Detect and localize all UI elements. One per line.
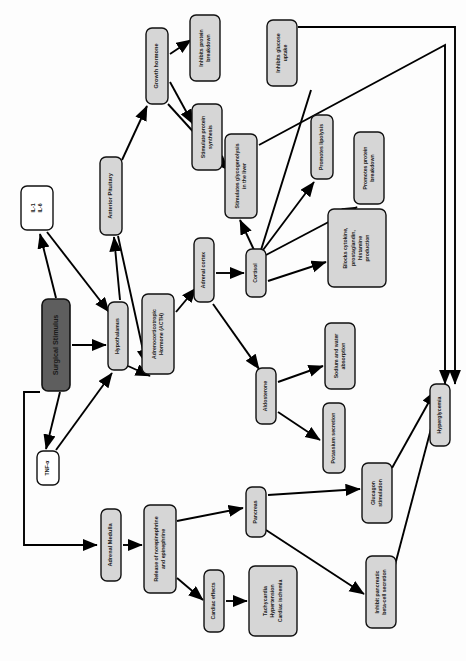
node-label-stimulates_glycogenolysis: Stimulates glycogenolysis	[234, 143, 240, 208]
node-label-glucagon_stimulation: Glucagon	[370, 481, 376, 505]
node-pancreas[interactable]: Pancreas	[246, 487, 266, 537]
node-label-inhibits_protein_breakdown: breakdown	[205, 34, 211, 61]
node-tnf_alpha[interactable]: TNF-α	[37, 451, 59, 485]
node-inhibits_glucose_uptake[interactable]: Inhibits glucoseuptake	[267, 20, 297, 86]
node-label-cardiac_outcomes: Tachycardia	[262, 586, 268, 616]
node-label-blocks_cytokine: Blocks cytokine,	[342, 227, 348, 268]
edge-cortisol-to-blocks_cytokine	[268, 262, 326, 281]
node-label-acth: Adrenocorticotropic	[151, 309, 157, 359]
node-aldosterone[interactable]: Aldosterone	[256, 368, 276, 424]
edge-release_ne_epi-to-pancreas	[177, 508, 243, 521]
edge-surgical_stimulus-to-interleukins	[40, 234, 56, 298]
node-label-anterior_pituitary: Anterior Pituitary	[107, 172, 113, 219]
node-label-sodium_water: Sodium and water	[333, 334, 339, 379]
node-growth_hormone[interactable]: Growth hormone	[146, 28, 168, 104]
node-label-potassium_secretion: Potassium secretion	[330, 413, 336, 464]
node-label-surgical_stimulus: Surgical Stimulus	[51, 315, 60, 376]
node-cortisol[interactable]: Cortisol	[246, 249, 266, 297]
node-acth[interactable]: AdrenocorticotropicHormone (ACTH)	[142, 294, 174, 374]
edge-surgical_stimulus-to-adrenal_medulla	[24, 392, 97, 545]
node-label-cardiac_outcomes: Hypertension	[269, 584, 275, 617]
node-cardiac_outcomes[interactable]: TachycardiaHypertensionCardiac ischemia	[249, 566, 297, 636]
edge-anterior_pituitary-to-growth_hormone	[122, 106, 147, 160]
node-label-release_ne_epi: and epinephrine	[160, 529, 166, 569]
node-surgical_stimulus[interactable]: Surgical Stimulus	[42, 299, 70, 391]
node-label-hypothalamus: Hypothalamus	[114, 318, 120, 354]
node-label-glucagon_stimulation: stimulation	[377, 479, 383, 507]
node-label-cardiac_effects: Cardiac effects	[210, 582, 216, 619]
node-label-inhibit_beta_cell: beta-cell secretion	[381, 569, 387, 615]
node-label-adrenal_medulla: Adrenal Medulla	[107, 523, 113, 567]
node-label-acth: Hormone (ACTH)	[158, 313, 164, 355]
node-sodium_water[interactable]: Sodium and waterabsorption	[325, 323, 355, 389]
node-label-blocks_cytokine: production	[364, 234, 370, 261]
node-stimulate_protein_synthesis[interactable]: Stimulate proteinsynthesis	[192, 104, 222, 170]
edge-aldosterone-to-potassium_secretion	[278, 412, 320, 440]
flowchart-canvas: Surgical StimulusIL-1IL-6TNF-αHypothalam…	[0, 0, 466, 661]
node-interleukins[interactable]: IL-1IL-6	[21, 186, 53, 230]
node-label-inhibits_glucose_uptake: Inhibits glucose	[275, 33, 281, 73]
node-label-adrenal_cortex: Adrenal cortex	[200, 252, 206, 288]
node-label-stimulate_protein_synthesis: Stimulate protein	[200, 116, 206, 158]
node-label-inhibit_beta_cell: Inhibit pancreatic	[374, 570, 380, 613]
node-label-stimulates_glycogenolysis: in the liver	[241, 163, 247, 189]
edge-growth_hormone-to-inhibits_protein_breakdown	[170, 40, 191, 54]
flowchart-svg: Surgical StimulusIL-1IL-6TNF-αHypothalam…	[0, 0, 466, 661]
node-label-promotes_protein_breakdown: breakdown	[369, 154, 375, 181]
node-label-tnf_alpha: TNF-α	[44, 460, 50, 476]
edge-aldosterone-to-sodium_water	[278, 366, 323, 382]
edge-inhibits_glucose_uptake-to-hyperglycemia	[298, 27, 455, 384]
edge-acth-to-adrenal_cortex	[176, 288, 196, 312]
node-inhibits_protein_breakdown[interactable]: Inhibits proteinbreakdown	[190, 15, 220, 81]
node-label-inhibits_protein_breakdown: Inhibits protein	[198, 29, 204, 66]
edge-cortisol-to-stimulates_glycogenolysis	[240, 220, 254, 250]
node-stimulates_glycogenolysis[interactable]: Stimulates glycogenolysisin the liver	[225, 134, 257, 218]
node-label-stimulate_protein_synthesis: synthesis	[207, 125, 213, 149]
node-cardiac_effects[interactable]: Cardiac effects	[204, 570, 224, 632]
node-label-promotes_lipolysis: Promotes lipolysis	[318, 124, 324, 170]
edge-adrenal_cortex-to-aldosterone	[213, 304, 259, 369]
node-label-interleukins: IL-1	[30, 203, 36, 212]
edge-glucagon_stimulation-to-hyperglycemia	[392, 391, 435, 468]
node-hyperglycemia[interactable]: Hyperglycemia	[430, 384, 450, 446]
node-label-cardiac_outcomes: Cardiac ischemia	[277, 580, 283, 623]
node-label-inhibits_glucose_uptake: uptake	[282, 45, 288, 62]
node-glucagon_stimulation[interactable]: Glucagonstimulation	[362, 463, 392, 523]
node-hypothalamus[interactable]: Hypothalamus	[108, 302, 128, 370]
node-label-cortisol: Cortisol	[252, 263, 258, 283]
node-label-release_ne_epi: Release of norepinephrine	[153, 516, 159, 581]
node-label-aldosterone: Aldosterone	[262, 381, 268, 411]
node-blocks_cytokine[interactable]: Blocks cytokine,prostaglandin,histaminep…	[328, 209, 386, 287]
node-release_ne_epi[interactable]: Release of norepinephrineand epinephrine	[144, 505, 176, 593]
node-label-interleukins: IL-6	[37, 203, 43, 212]
node-label-sodium_water: absorption	[340, 343, 346, 370]
node-label-pancreas: Pancreas	[252, 500, 258, 523]
edge-pancreas-to-glucagon_stimulation	[268, 489, 360, 495]
node-adrenal_cortex[interactable]: Adrenal cortex	[194, 238, 214, 302]
node-label-hyperglycemia: Hyperglycemia	[436, 396, 442, 433]
node-adrenal_medulla[interactable]: Adrenal Medulla	[101, 509, 121, 581]
node-inhibit_beta_cell[interactable]: Inhibit pancreaticbeta-cell secretion	[366, 556, 396, 628]
edge-hypothalamus-to-anterior_pituitary	[114, 237, 120, 300]
edge-release_ne_epi-to-cardiac_effects	[177, 578, 203, 600]
node-label-growth_hormone: Growth hormone	[153, 43, 159, 88]
node-label-blocks_cytokine: histamine	[357, 236, 363, 260]
node-label-promotes_protein_breakdown: Promotes protein	[362, 147, 368, 190]
edge-surgical_stimulus-to-tnf_alpha	[46, 392, 60, 449]
node-label-blocks_cytokine: prostaglandin,	[350, 230, 356, 266]
node-potassium_secretion[interactable]: Potassium secretion	[323, 403, 345, 473]
nodes-layer: Surgical StimulusIL-1IL-6TNF-αHypothalam…	[21, 15, 450, 636]
edge-cortisol-to-inhibits_glucose_uptake	[261, 90, 311, 250]
node-anterior_pituitary[interactable]: Anterior Pituitary	[100, 157, 122, 235]
node-promotes_protein_breakdown[interactable]: Promotes proteinbreakdown	[354, 132, 384, 204]
node-promotes_lipolysis[interactable]: Promotes lipolysis	[311, 115, 333, 179]
